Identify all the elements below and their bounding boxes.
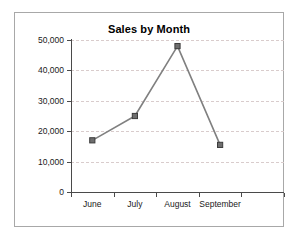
- data-point-marker: [90, 138, 95, 143]
- series-markers: [90, 43, 223, 147]
- data-series-layer: [15, 13, 285, 228]
- series-line: [92, 46, 220, 145]
- data-point-marker: [132, 113, 137, 118]
- chart-container: Sales by Month 010,00020,00030,00040,000…: [14, 12, 284, 227]
- data-point-marker: [218, 142, 223, 147]
- data-point-marker: [175, 43, 180, 48]
